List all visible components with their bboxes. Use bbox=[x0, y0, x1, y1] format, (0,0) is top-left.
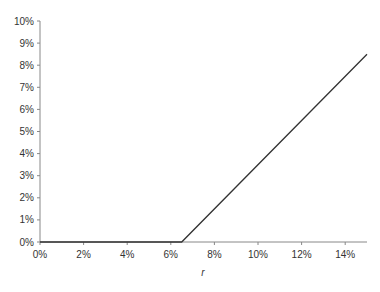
x-tick-label: 2% bbox=[76, 249, 91, 260]
series-line bbox=[40, 54, 367, 242]
y-tick-label: 4% bbox=[20, 148, 35, 159]
y-tick-label: 0% bbox=[20, 237, 35, 248]
y-tick-label: 3% bbox=[20, 170, 35, 181]
x-tick-label: 6% bbox=[164, 249, 179, 260]
x-tick-label: 14% bbox=[335, 249, 355, 260]
y-tick-label: 1% bbox=[20, 214, 35, 225]
y-tick-label: 2% bbox=[20, 192, 35, 203]
y-tick-label: 9% bbox=[20, 38, 35, 49]
x-tick-label: 12% bbox=[292, 249, 312, 260]
y-axis: 0%1%2%3%4%5%6%7%8%9%10% bbox=[14, 16, 40, 248]
chart: 0%1%2%3%4%5%6%7%8%9%10% 0%2%4%6%8%10%12%… bbox=[0, 0, 380, 292]
y-tick-label: 8% bbox=[20, 60, 35, 71]
series-lines bbox=[40, 54, 367, 242]
x-tick-label: 10% bbox=[248, 249, 268, 260]
y-tick-label: 6% bbox=[20, 104, 35, 115]
x-tick-label: 0% bbox=[33, 249, 48, 260]
y-tick-label: 5% bbox=[20, 126, 35, 137]
x-tick-label: 4% bbox=[120, 249, 135, 260]
x-tick-label: 8% bbox=[207, 249, 222, 260]
x-axis: 0%2%4%6%8%10%12%14% bbox=[33, 242, 367, 260]
y-tick-label: 7% bbox=[20, 82, 35, 93]
x-axis-label: r bbox=[201, 267, 205, 278]
y-tick-label: 10% bbox=[14, 16, 34, 27]
